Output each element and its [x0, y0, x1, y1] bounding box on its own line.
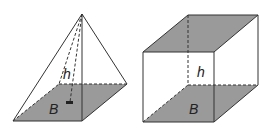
prism-bottom-face	[143, 85, 258, 122]
pyramid-base-label: B	[49, 101, 58, 117]
pyramid: h B	[13, 14, 127, 121]
solids-diagram: h B h B	[0, 0, 274, 132]
prism-height-label: h	[197, 64, 205, 80]
pyramid-height-foot-mark	[66, 101, 73, 104]
pyramid-height-label: h	[63, 66, 71, 82]
prism: h B	[143, 15, 258, 122]
prism-top-face	[143, 15, 258, 52]
pyramid-edge-back-right	[82, 14, 127, 84]
prism-base-label: B	[189, 101, 198, 117]
